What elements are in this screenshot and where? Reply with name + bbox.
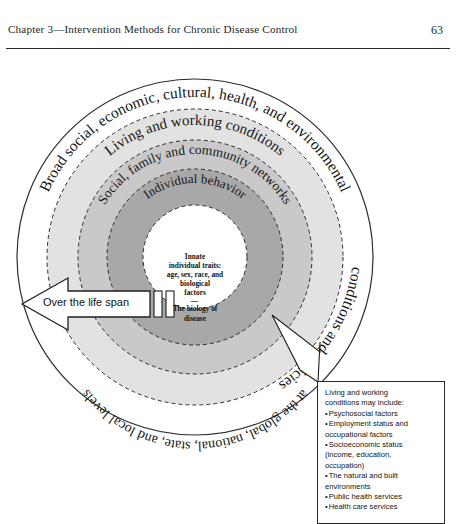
callout-line: Socioeconomic status (325, 440, 439, 450)
page-header: Chapter 3—Intervention Methods for Chron… (0, 0, 457, 56)
callout-box: Living and workingconditions may include… (317, 381, 445, 524)
callout-line: The natural and built (325, 471, 439, 481)
callout-line: occupation) (325, 461, 439, 471)
callout-line: Living and working (325, 388, 439, 398)
callout-line: Psychosocial factors (325, 409, 439, 419)
callout-line: environments (325, 482, 439, 492)
callout-line: (income, education, (325, 450, 439, 460)
page-title: Chapter 3—Intervention Methods for Chron… (8, 23, 298, 35)
lifespan-tick-1 (154, 291, 162, 317)
callout-line: Health care services (325, 502, 439, 512)
callout-line: Public health services (325, 492, 439, 502)
page-number: 63 (431, 23, 443, 38)
header-divider (6, 48, 450, 49)
determinants-of-health-diagram: Broad social, economic, cultural, health… (0, 52, 457, 487)
lifespan-tick-2 (166, 291, 174, 317)
callout-line: Employment status and (325, 419, 439, 429)
callout-line: occupational factors (325, 430, 439, 440)
callout-line: conditions may include: (325, 398, 439, 408)
